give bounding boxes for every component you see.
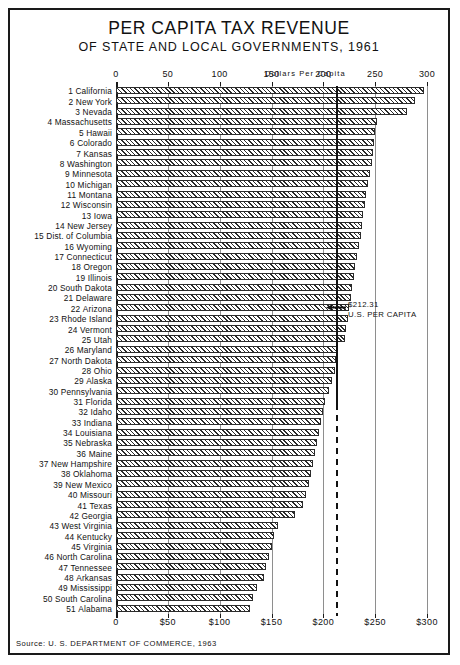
category-name: Iowa	[94, 211, 112, 221]
bar	[116, 460, 313, 467]
gridline	[375, 86, 376, 614]
bar	[116, 532, 274, 539]
category-name: Ohio	[94, 366, 112, 376]
category-rank: 38	[61, 469, 71, 479]
category-name: Pennsylvania	[61, 387, 112, 397]
category-rank: 37	[39, 459, 49, 469]
bar	[116, 418, 321, 425]
x-axis-tick-label-top: 100	[212, 69, 228, 79]
category-label: 20South Dakota	[48, 283, 112, 293]
bar	[116, 543, 272, 550]
category-label: 14New Jersey	[55, 221, 112, 231]
category-label: 26Maryland	[65, 345, 112, 355]
category-name: Illinois	[88, 273, 112, 283]
gridline	[427, 86, 428, 614]
category-name: Rhode Island	[61, 314, 112, 324]
category-rank: 28	[82, 366, 92, 376]
category-name: West Virginia	[61, 521, 112, 531]
category-label: 43West Virginia	[49, 521, 112, 531]
category-rank: 44	[65, 532, 75, 542]
bar	[116, 232, 361, 239]
category-rank: 47	[58, 563, 68, 573]
reference-line-dashed	[336, 404, 338, 616]
category-label: 6Colorado	[70, 138, 112, 148]
category-rank: 2	[68, 97, 73, 107]
category-name: Nebraska	[75, 438, 112, 448]
category-name: Nevada	[83, 107, 113, 117]
category-rank: 14	[55, 221, 65, 231]
category-name: Wisconsin	[73, 200, 112, 210]
category-name: Wyoming	[76, 242, 112, 252]
category-name: Michigan	[78, 180, 112, 190]
category-label: 21Delaware	[64, 293, 112, 303]
bar	[116, 304, 349, 311]
category-rank: 17	[55, 252, 65, 262]
category-label: 32Idaho	[78, 407, 112, 417]
category-label: 51Alabama	[66, 604, 112, 614]
category-rank: 43	[49, 521, 59, 531]
category-label: 47Tennessee	[58, 563, 112, 573]
category-label: 5Hawaii	[79, 128, 112, 138]
category-label: 1California	[68, 86, 112, 96]
bar	[116, 563, 266, 570]
category-name: Kansas	[83, 149, 112, 159]
category-rank: 36	[77, 449, 87, 459]
category-label: 10Michigan	[66, 180, 112, 190]
category-label: 25Utah	[82, 335, 112, 345]
category-rank: 24	[68, 325, 78, 335]
category-name: Dist. of Columbia	[46, 231, 112, 241]
category-label: 11Montana	[67, 190, 112, 200]
x-axis-tick-label-bottom: $50	[160, 617, 176, 627]
category-rank: 20	[48, 283, 58, 293]
bar	[116, 242, 359, 249]
bar	[116, 87, 424, 94]
category-name: Arizona	[83, 304, 112, 314]
category-rank: 16	[64, 242, 74, 252]
category-label: 3Nevada	[75, 107, 112, 117]
category-rank: 34	[63, 428, 73, 438]
bar	[116, 429, 319, 436]
category-label: 4Massachusetts	[47, 117, 112, 127]
bar	[116, 273, 354, 280]
category-label: 28Ohio	[82, 366, 112, 376]
category-rank: 11	[67, 190, 76, 200]
bar	[116, 180, 368, 187]
category-name: Colorado	[77, 138, 112, 148]
category-rank: 13	[82, 211, 92, 221]
bar	[116, 584, 257, 591]
bar	[116, 553, 269, 560]
category-label: 15Dist. of Columbia	[34, 231, 112, 241]
category-label: 19Illinois	[76, 273, 112, 283]
category-rank: 22	[71, 304, 81, 314]
bar	[116, 367, 335, 374]
bar	[116, 491, 306, 498]
bar	[116, 501, 303, 508]
page-title: PER CAPITA TAX REVENUE	[10, 18, 448, 39]
category-name: Montana	[79, 190, 112, 200]
category-name: Connecticut	[67, 252, 112, 262]
category-name: Delaware	[76, 293, 112, 303]
category-name: Arkansas	[76, 573, 112, 583]
category-label: 39New Mexico	[53, 480, 112, 490]
x-axis-tick-label-top: 50	[162, 69, 173, 79]
category-name: New Hampshire	[51, 459, 112, 469]
category-rank: 1	[68, 86, 73, 96]
category-name: Alaska	[86, 376, 112, 386]
category-name: Maryland	[77, 345, 112, 355]
category-rank: 29	[74, 376, 84, 386]
x-axis-tick-label-top: 250	[367, 69, 383, 79]
category-label: 18Oregon	[71, 262, 112, 272]
bar	[116, 377, 332, 384]
category-rank: 31	[74, 397, 84, 407]
bar	[116, 335, 345, 342]
bar	[116, 294, 351, 301]
tick-mark-top	[116, 82, 117, 86]
category-name: Utah	[94, 335, 112, 345]
category-rank: 6	[70, 138, 75, 148]
category-label: 7Kansas	[76, 149, 112, 159]
x-axis-tick-label-bottom: $250	[364, 617, 386, 627]
bar	[116, 398, 325, 405]
bar	[116, 439, 317, 446]
category-name: New Jersey	[67, 221, 112, 231]
category-label: 49Mississippi	[58, 583, 112, 593]
